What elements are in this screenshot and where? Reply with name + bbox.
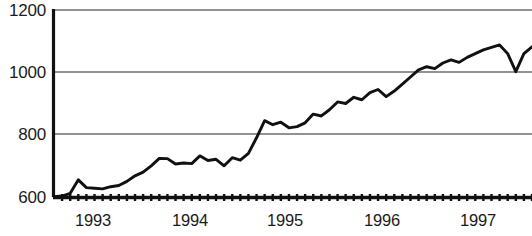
x-tick-label-1993: 1993 [58,212,128,229]
x-tick-label-1996: 1996 [347,212,417,229]
y-tick-label-600: 600 [0,189,46,206]
x-tick-label-1997: 1997 [443,212,513,229]
line-chart-plot [0,0,532,236]
chart-figure: 1200 1000 800 600 1993 1994 1995 1996 19… [0,0,532,236]
gridlines-group [53,10,532,134]
y-tick-label-1200: 1200 [0,2,46,19]
data-series-line [54,45,532,197]
y-tick-label-800: 800 [0,126,46,143]
y-tick-label-1000: 1000 [0,64,46,81]
x-tick-label-1994: 1994 [155,212,225,229]
axis-group [53,9,532,198]
x-tick-label-1995: 1995 [250,212,320,229]
